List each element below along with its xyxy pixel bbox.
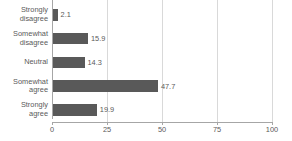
bar-value-label: 14.3 (88, 57, 102, 69)
bar-value-label: 47.7 (161, 80, 175, 92)
x-axis-tick-labels: 0 25 50 75 100 (0, 125, 292, 139)
xtick-label-25: 25 (92, 125, 122, 134)
bar-row-neutral: Neutral 14.3 (0, 51, 292, 75)
bar-strongly-agree (53, 104, 97, 116)
category-label: Somewhat disagree (0, 27, 48, 51)
bar-value-label: 15.9 (91, 33, 105, 45)
bar-track: 19.9 (53, 98, 292, 122)
xtick-label-100: 100 (257, 125, 287, 134)
bar-rows: Strongly disagree 2.1 Somewhat disagree … (0, 3, 292, 122)
bar-chart: Strongly disagree 2.1 Somewhat disagree … (0, 0, 292, 141)
bar-somewhat-agree (53, 80, 158, 92)
category-label: Strongly disagree (0, 3, 48, 27)
category-label: Somewhat agree (0, 74, 48, 98)
category-label: Neutral (0, 51, 48, 75)
bar-value-label: 19.9 (100, 104, 114, 116)
bar-somewhat-disagree (53, 33, 88, 45)
bar-track: 2.1 (53, 3, 292, 27)
category-label: Strongly agree (0, 98, 48, 122)
bar-neutral (53, 57, 85, 69)
bar-track: 47.7 (53, 74, 292, 98)
bar-row-somewhat-agree: Somewhat agree 47.7 (0, 74, 292, 98)
bar-row-somewhat-disagree: Somewhat disagree 15.9 (0, 27, 292, 51)
bar-track: 15.9 (53, 27, 292, 51)
xtick-label-50: 50 (147, 125, 177, 134)
xtick-label-75: 75 (202, 125, 232, 134)
bar-row-strongly-disagree: Strongly disagree 2.1 (0, 3, 292, 27)
bar-value-label: 2.1 (61, 9, 71, 21)
bar-row-strongly-agree: Strongly agree 19.9 (0, 98, 292, 122)
xtick-label-0: 0 (37, 125, 67, 134)
bar-strongly-disagree (53, 9, 58, 21)
bar-track: 14.3 (53, 51, 292, 75)
